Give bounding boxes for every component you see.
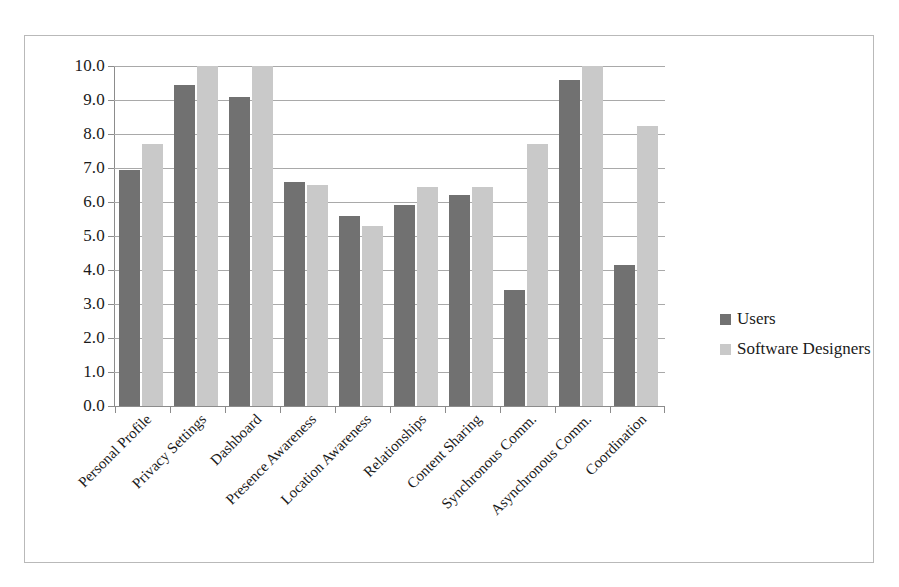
bar-group xyxy=(390,66,445,406)
y-tick-label: 10.0 xyxy=(74,56,105,76)
bar-users[interactable] xyxy=(504,290,525,406)
x-label-slot: Privacy Settings xyxy=(170,407,225,557)
y-tick-mark-4.0 xyxy=(108,270,114,271)
y-tick-mark-8.0 xyxy=(108,134,114,135)
y-tick-label: 5.0 xyxy=(83,226,105,246)
bar-group xyxy=(610,66,665,406)
bar-users[interactable] xyxy=(449,195,470,406)
x-axis-category-labels: Personal ProfilePrivacy SettingsDashboar… xyxy=(115,407,666,557)
x-label-slot: Location Awareness xyxy=(335,407,390,557)
bar-group xyxy=(555,66,610,406)
bar-users[interactable] xyxy=(229,97,250,406)
bar-software-designers[interactable] xyxy=(307,185,328,406)
bar-software-designers[interactable] xyxy=(197,66,218,406)
x-label-slot: Asynchronous Comm. xyxy=(556,407,611,557)
y-tick-mark-10.0 xyxy=(108,66,114,67)
chart-figure-frame: 10.09.08.07.06.05.04.03.02.01.00.0 Perso… xyxy=(24,35,874,563)
bar-group xyxy=(170,66,225,406)
bar-software-designers[interactable] xyxy=(527,144,548,406)
y-tick-mark-9.0 xyxy=(108,100,114,101)
bar-software-designers[interactable] xyxy=(252,66,273,406)
bar-software-designers[interactable] xyxy=(362,226,383,406)
bar-users[interactable] xyxy=(119,170,140,406)
y-tick-label: 8.0 xyxy=(83,124,105,144)
y-tick-label: 2.0 xyxy=(83,328,105,348)
bar-software-designers[interactable] xyxy=(582,66,603,406)
y-tick-mark-3.0 xyxy=(108,304,114,305)
bar-group xyxy=(500,66,555,406)
bar-group xyxy=(445,66,500,406)
x-label-slot: Coordination xyxy=(611,407,666,557)
legend-swatch-icon xyxy=(720,314,731,325)
y-tick-mark-2.0 xyxy=(108,338,114,339)
y-tick-label: 9.0 xyxy=(83,90,105,110)
y-tick-mark-1.0 xyxy=(108,372,114,373)
legend-swatch-icon xyxy=(720,344,731,355)
y-tick-label: 7.0 xyxy=(83,158,105,178)
bar-group xyxy=(225,66,280,406)
bar-users[interactable] xyxy=(339,216,360,406)
bar-group xyxy=(115,66,170,406)
bar-users[interactable] xyxy=(559,80,580,406)
bar-group xyxy=(335,66,390,406)
y-tick-label: 0.0 xyxy=(83,396,105,416)
legend-item[interactable]: Users xyxy=(720,304,871,334)
plot-area: 10.09.08.07.06.05.04.03.02.01.00.0 xyxy=(114,66,665,406)
legend-label: Users xyxy=(737,309,776,329)
y-tick-mark-7.0 xyxy=(108,168,114,169)
bar-users[interactable] xyxy=(174,85,195,406)
y-tick-label: 4.0 xyxy=(83,260,105,280)
y-tick-label: 1.0 xyxy=(83,362,105,382)
bar-software-designers[interactable] xyxy=(472,187,493,406)
y-tick-mark-6.0 xyxy=(108,202,114,203)
y-tick-mark-0.0 xyxy=(108,406,114,407)
y-tick-label: 6.0 xyxy=(83,192,105,212)
bar-software-designers[interactable] xyxy=(637,126,658,407)
legend-item[interactable]: Software Designers xyxy=(720,334,871,364)
bars-layer xyxy=(115,66,665,406)
bar-group xyxy=(280,66,335,406)
y-tick-label: 3.0 xyxy=(83,294,105,314)
y-tick-mark-5.0 xyxy=(108,236,114,237)
bar-software-designers[interactable] xyxy=(142,144,163,406)
bar-software-designers[interactable] xyxy=(417,187,438,406)
chart-canvas: 10.09.08.07.06.05.04.03.02.01.00.0 Perso… xyxy=(25,36,873,562)
bar-users[interactable] xyxy=(284,182,305,406)
legend-label: Software Designers xyxy=(737,339,871,359)
bar-users[interactable] xyxy=(614,265,635,406)
chart-legend: UsersSoftware Designers xyxy=(720,304,871,364)
bar-users[interactable] xyxy=(394,205,415,406)
